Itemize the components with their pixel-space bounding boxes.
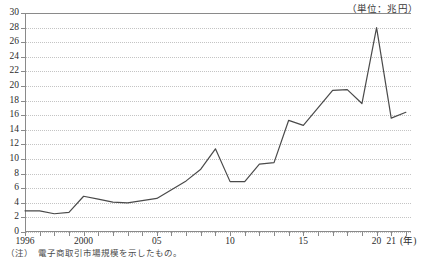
footnote: （注） 電子商取引市場規模を示したもの。 [6,249,416,258]
x-tick-5 [98,232,99,236]
x-tick-2 [54,232,55,236]
y-axis-label-30: 30 [10,8,20,18]
y-axis-label-16: 16 [10,110,20,120]
x-tick-22 [347,232,348,236]
y-axis-label-26: 26 [10,37,20,47]
y-axis-label-4: 4 [14,198,19,208]
y-axis-label-20: 20 [10,81,20,91]
y-axis-label-24: 24 [10,52,20,62]
x-axis-label-1996: 1996 [16,237,35,247]
x-tick-13 [215,232,216,236]
x-tick-21 [333,232,334,236]
line-chart: （単位：兆円） 024681012141618202224262830 1996… [0,0,424,258]
y-axis-label-6: 6 [14,183,19,193]
plot-area: 024681012141618202224262830 199620000510… [25,13,411,232]
y-axis-label-2: 2 [14,213,19,223]
x-tick-15 [245,232,246,236]
series-polyline [25,28,406,214]
x-tick-11 [186,232,187,236]
x-axis-label-21: 21 [386,237,396,247]
x-axis-unit-label: (年) [400,237,416,247]
y-axis-label-10: 10 [10,154,20,164]
x-tick-6 [113,232,114,236]
x-tick-10 [171,232,172,236]
y-axis-label-18: 18 [10,96,20,106]
y-axis-label-8: 8 [14,169,19,179]
y-axis-label-12: 12 [10,140,20,150]
y-axis-label-28: 28 [10,23,20,33]
x-tick-16 [259,232,260,236]
series-line-market-size [25,13,411,232]
x-tick-18 [289,232,290,236]
x-tick-20 [318,232,319,236]
x-axis-label-15: 15 [299,237,309,247]
x-axis-label-2000: 2000 [74,237,93,247]
x-tick-7 [128,232,129,236]
y-axis-label-22: 22 [10,67,20,77]
x-tick-23 [362,232,363,236]
x-tick-8 [142,232,143,236]
x-tick-12 [201,232,202,236]
x-tick-3 [69,232,70,236]
y-axis-label-14: 14 [10,125,20,135]
x-axis-label-05: 05 [152,237,162,247]
x-axis-label-10: 10 [225,237,235,247]
x-axis-label-20: 20 [372,237,382,247]
x-tick-17 [274,232,275,236]
x-tick-1 [40,232,41,236]
